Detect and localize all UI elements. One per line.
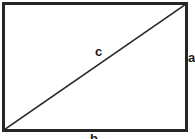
label-right-side-a: a <box>188 51 195 64</box>
label-diagonal-c: c <box>95 45 102 58</box>
diagonal-line-svg <box>0 0 195 139</box>
geometry-diagram: c a b <box>0 0 195 139</box>
label-bottom-side-b: b <box>90 132 98 139</box>
diagonal-line <box>4 4 186 130</box>
